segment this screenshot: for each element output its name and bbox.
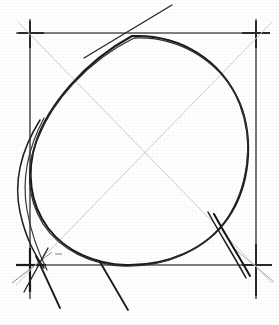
bottom-tick-center [100, 262, 128, 310]
corner-guide-strokes-group [12, 250, 274, 283]
egg-contour-secondary-pass [29, 38, 247, 266]
tangent-stroke-top [84, 5, 172, 58]
smudge-bottom-left-interior [55, 253, 62, 255]
bounding-square-group [16, 19, 270, 299]
egg-shape-group [29, 36, 248, 266]
egg-construction-drawing [0, 0, 279, 325]
right-tail-stroke [214, 214, 250, 276]
diagonal-bl-tr [16, 22, 272, 285]
sketch-canvas [0, 0, 279, 325]
smudges-group [55, 253, 62, 255]
diagonals-group [16, 22, 272, 285]
egg-contour [31, 36, 249, 265]
right-tail-stroke-tip [208, 212, 246, 278]
